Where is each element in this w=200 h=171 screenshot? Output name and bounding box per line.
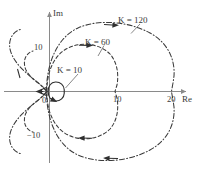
nyquist-figure: Im Re 0 10 20 10 −10 K = 120 K = 60 K = … <box>0 0 200 171</box>
k-60-upper-lobe <box>24 51 47 92</box>
y-tick-minus-10: −10 <box>27 131 40 140</box>
k-120-lower-lobe <box>10 92 47 155</box>
leader-k-10 <box>66 74 79 88</box>
x-tick-10: 10 <box>113 95 122 104</box>
x-tick-20: 20 <box>167 95 176 104</box>
y-tick-10: 10 <box>34 43 43 52</box>
imaginary-axis-label: Im <box>53 9 63 18</box>
annotation-leaders <box>66 24 141 88</box>
plot-canvas <box>0 0 200 171</box>
k-120-arrow-top <box>104 25 116 26</box>
curve-label-k-120: K = 120 <box>118 16 148 25</box>
k-120-left-lobe <box>18 69 21 78</box>
curve-label-k-60: K = 60 <box>85 38 110 47</box>
k-120-upper-lobe <box>10 29 47 92</box>
axis-lines <box>4 12 186 163</box>
origin-label: 0 <box>42 96 46 105</box>
curve-label-k-10: K = 10 <box>57 66 82 75</box>
real-axis-label: Re <box>182 95 192 104</box>
